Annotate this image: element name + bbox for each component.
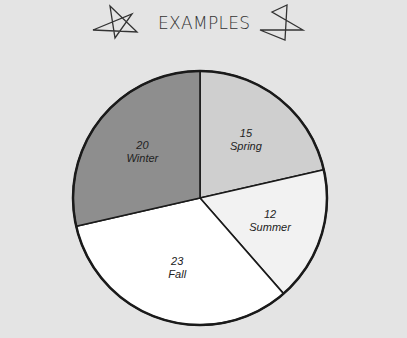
slice-value-label: 20 [135,139,149,151]
slice-value-label: 12 [264,208,276,220]
slice-name-label: Summer [249,221,292,233]
slice-value-label: 15 [240,127,253,139]
slice-name-label: Spring [230,140,263,152]
slice-name-label: Fall [168,268,186,280]
pie-chart: 15Spring12Summer23Fall20Winter [0,0,407,338]
slice-value-label: 23 [170,255,184,267]
slice-name-label: Winter [127,152,160,164]
